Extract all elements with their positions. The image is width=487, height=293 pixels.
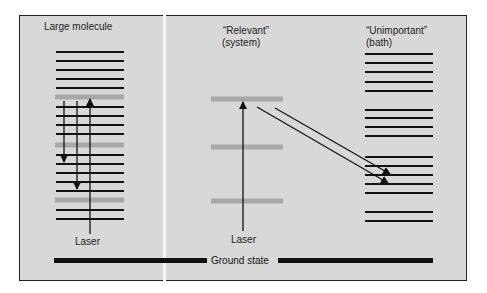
bath-energy-level — [365, 183, 433, 185]
energy-level — [56, 51, 124, 53]
bath-energy-level — [365, 71, 433, 73]
bath-energy-level — [365, 220, 433, 222]
ground-state-bar-left — [54, 258, 207, 263]
bath-energy-level — [365, 135, 433, 137]
energy-level — [56, 69, 124, 71]
system-levels — [211, 97, 283, 204]
energy-level — [56, 87, 124, 89]
bath-energy-level — [365, 90, 433, 92]
system-energy-level — [211, 145, 283, 150]
bath-levels — [365, 53, 433, 222]
bath-energy-level — [365, 211, 433, 213]
ground-state-bar-right — [278, 258, 433, 263]
bath-energy-level — [365, 156, 433, 158]
energy-level — [56, 60, 124, 62]
bath-energy-level — [365, 81, 433, 83]
bath-energy-level — [365, 62, 433, 64]
bath-energy-level — [365, 109, 433, 111]
energy-level-diagram — [0, 0, 487, 293]
bath-energy-level — [365, 192, 433, 194]
bath-energy-level — [365, 53, 433, 55]
bath-energy-level — [365, 117, 433, 119]
system-energy-level — [211, 97, 283, 102]
system-energy-level — [211, 199, 283, 204]
gray-energy-level — [55, 95, 124, 100]
bath-energy-level — [365, 126, 433, 128]
ground-state-label: Ground state — [209, 255, 271, 266]
energy-level — [56, 78, 124, 80]
